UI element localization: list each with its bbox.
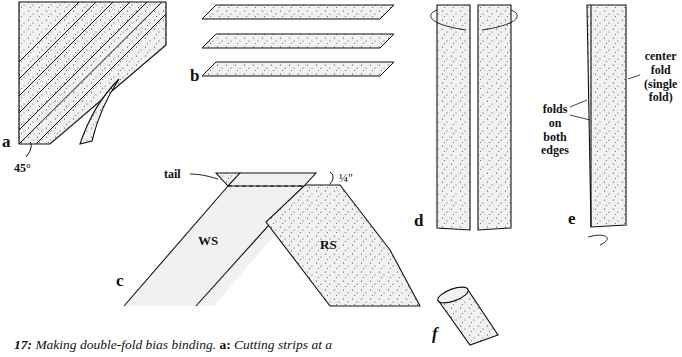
panel-e-label: e [568, 210, 576, 227]
panel-f-roll [436, 284, 498, 345]
folds-both-edges-note: folds on both edges [541, 103, 569, 158]
panel-a-fabric [19, 0, 182, 157]
caption-part-text: Cutting strips at a [234, 337, 332, 352]
seam-allowance-note: ¼" [339, 172, 353, 186]
center-fold-note: center fold (single fold) [644, 50, 677, 105]
panel-d-fold [431, 5, 518, 230]
panel-c-label: c [116, 272, 124, 289]
panel-c-seam [124, 172, 420, 306]
panel-e-fold [570, 5, 640, 245]
angle-note: 45° [14, 162, 31, 176]
figure-caption: 17: Making double-fold bias binding. a: … [14, 337, 332, 353]
wrong-side-label: WS [198, 234, 218, 249]
right-side-label: RS [320, 238, 337, 253]
panel-a-label: a [2, 133, 11, 150]
panel-b-strips [202, 5, 394, 76]
caption-part-label: a: [219, 337, 230, 352]
caption-title: Making double-fold bias binding. [35, 337, 216, 352]
tail-note: tail [164, 168, 181, 182]
panel-f-label: f [432, 325, 438, 342]
panel-d-label: d [414, 212, 423, 229]
panel-b-label: b [190, 67, 199, 84]
figure-number: 17: [14, 337, 32, 352]
